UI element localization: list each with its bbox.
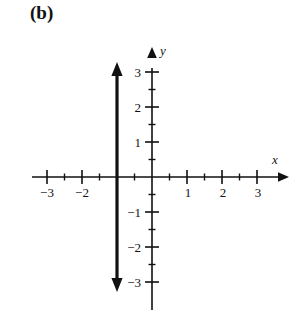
y-axis	[147, 47, 157, 310]
x-tick-label-pos3: 3	[255, 185, 262, 200]
y-tick-label-pos2: 2	[135, 100, 142, 115]
x-axis-label: x	[271, 152, 278, 167]
figure-canvas: (b)	[0, 0, 298, 316]
y-tick-label-pos1: 1	[135, 135, 142, 150]
x-tick-label-pos1: 1	[185, 185, 192, 200]
y-axis-label: y	[158, 43, 166, 58]
graph-line-arrowhead-down-icon	[111, 278, 122, 292]
x-tick-label-neg3: −3	[40, 185, 54, 200]
graph-line-arrowhead-up-icon	[111, 62, 122, 76]
y-tick-label-neg2: −2	[127, 240, 141, 255]
x-tick-label-neg2: −2	[75, 185, 89, 200]
x-tick-label-pos2: 2	[220, 185, 227, 200]
x-axis	[32, 172, 289, 182]
coordinate-plane: x y −3 −2 1 2 3 3 2 1 −1 −2 −3	[0, 0, 298, 316]
y-tick-label-pos3: 3	[135, 65, 142, 80]
y-tick-label-neg1: −1	[127, 205, 141, 220]
x-axis-arrowhead-icon	[278, 172, 289, 182]
y-axis-arrowhead-icon	[147, 47, 157, 58]
y-tick-label-neg3: −3	[127, 275, 141, 290]
